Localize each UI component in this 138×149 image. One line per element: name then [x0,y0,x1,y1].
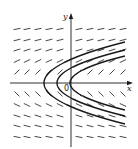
slope-mark [57,59,63,62]
slope-mark [57,28,64,29]
slope-mark [14,70,19,75]
slope-mark [35,115,42,117]
x-axis [10,81,133,85]
y-axis [69,13,73,147]
slope-mark [14,28,21,29]
slope-mark [46,39,53,41]
slope-mark [109,39,116,41]
slope-mark [87,92,92,97]
slope-mark [98,39,105,41]
slope-mark [35,28,42,29]
slope-mark [109,70,114,75]
direction-field-diagram [0,0,138,149]
slope-mark [57,125,64,127]
slope-mark [98,70,103,75]
slope-mark [14,125,21,127]
slope-mark [24,59,30,62]
slope-mark [24,103,30,106]
slope-mark [120,59,126,62]
slope-mark [46,103,52,106]
slope-mark [109,115,116,117]
slope-mark [109,49,116,51]
slope-mark [14,59,20,62]
slope-mark [109,136,116,137]
slope-mark [57,39,64,41]
slope-mark [87,28,94,29]
x-axis-label: x [127,85,132,93]
slope-mark [98,136,105,137]
slope-mark [76,125,83,127]
slope-mark [87,125,94,127]
slope-mark [120,103,126,106]
slope-mark [46,115,53,117]
slope-mark [87,39,94,41]
slope-mark [87,70,92,75]
slope-mark [24,125,31,127]
slope-mark [35,49,42,51]
slope-mark [46,59,52,62]
slope-mark [14,136,21,137]
slope-mark [14,39,21,41]
slope-mark [35,103,41,106]
slope-mark [109,28,116,29]
slope-mark [57,136,64,137]
y-axis-arrow-icon [69,13,73,19]
slope-mark [76,115,83,117]
slope-mark [14,115,21,117]
slope-mark [24,28,31,29]
slope-mark [76,103,82,106]
slope-mark [120,125,127,127]
slope-mark [24,92,29,97]
slope-mark [76,49,83,51]
slope-mark [35,136,42,137]
slope-mark [120,70,125,75]
slope-mark [24,39,31,41]
y-axis-label: y [63,13,68,21]
slope-mark [76,39,83,41]
slope-mark [14,103,20,106]
slope-mark [76,28,83,29]
slope-mark [24,49,31,51]
slope-mark [35,125,42,127]
slope-mark [109,92,114,97]
slope-mark [24,70,29,75]
slope-mark [120,136,127,137]
slope-mark [14,92,19,97]
slope-mark [57,115,64,117]
slope-mark [120,92,125,97]
slope-mark [46,49,53,51]
slope-mark [76,59,82,62]
slope-mark [109,125,116,127]
slope-mark [35,39,42,41]
slope-mark [57,103,63,106]
slope-mark [24,136,31,137]
slope-mark [35,59,41,62]
slope-mark [98,125,105,127]
origin-label: 0 [64,85,69,93]
slope-mark [98,28,105,29]
slope-mark [98,92,103,97]
slope-mark [57,49,64,51]
slope-mark [46,125,53,127]
slope-mark [87,136,94,137]
slope-mark [14,49,21,51]
slope-mark [120,28,127,29]
slope-mark [46,136,53,137]
slope-mark [120,39,127,41]
slope-mark [35,92,40,97]
slope-mark [76,136,83,137]
slope-mark [35,70,40,75]
slope-mark [24,115,31,117]
slope-mark [46,28,53,29]
